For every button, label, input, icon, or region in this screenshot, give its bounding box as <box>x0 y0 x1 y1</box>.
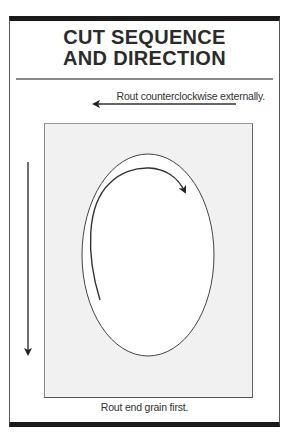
oval-cutout <box>82 154 214 356</box>
diagram-graphics <box>0 0 290 441</box>
